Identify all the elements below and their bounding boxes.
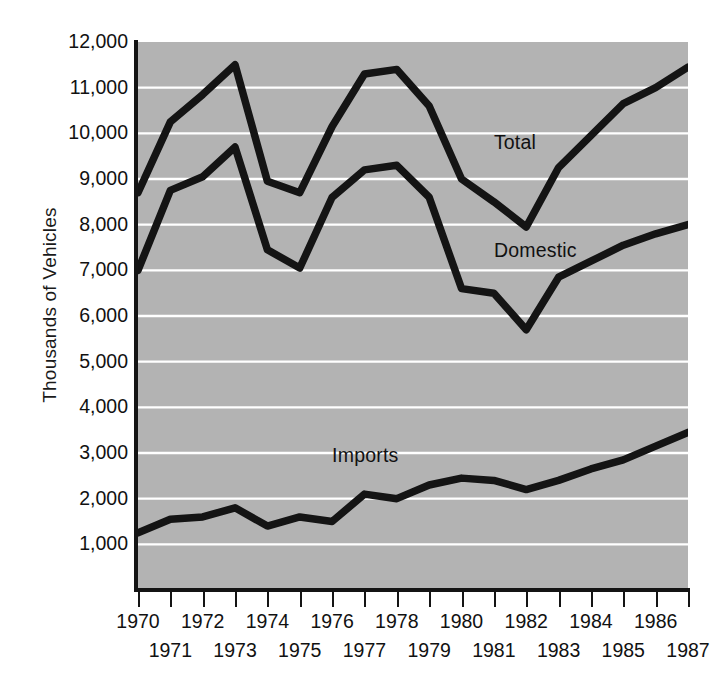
x-tick-mark <box>267 592 269 607</box>
y-tick-label: 8,000 <box>40 215 128 235</box>
x-tick-label: 1980 <box>434 612 490 632</box>
series-line-imports <box>138 432 688 532</box>
x-axis-ticks <box>138 592 688 608</box>
y-tick-label: 1,000 <box>40 534 128 554</box>
x-tick-mark <box>235 592 237 607</box>
x-tick-label: 1982 <box>498 612 554 632</box>
y-tick-label: 9,000 <box>40 169 128 189</box>
series-canvas <box>138 42 688 590</box>
x-tick-mark <box>526 592 528 607</box>
x-tick-mark <box>203 592 205 607</box>
x-tick-mark <box>300 592 302 607</box>
x-tick-label: 1985 <box>595 641 651 661</box>
plot-area <box>138 42 688 590</box>
x-tick-mark <box>429 592 431 607</box>
x-tick-mark <box>397 592 399 607</box>
x-tick-label: 1971 <box>142 641 198 661</box>
y-tick-label: 5,000 <box>40 352 128 372</box>
x-tick-mark <box>138 592 140 607</box>
x-tick-mark <box>623 592 625 607</box>
x-tick-label: 1977 <box>336 641 392 661</box>
y-tick-label: 12,000 <box>40 32 128 52</box>
y-axis-tick-labels: 12,00011,00010,0009,0008,0007,0006,0005,… <box>28 0 128 678</box>
x-tick-label: 1979 <box>401 641 457 661</box>
series-label-domestic: Domestic <box>494 239 577 262</box>
x-tick-mark <box>462 592 464 607</box>
x-tick-mark <box>170 592 172 607</box>
y-tick-label: 6,000 <box>40 306 128 326</box>
y-tick-label: 7,000 <box>40 260 128 280</box>
series-line-domestic <box>138 147 688 330</box>
x-tick-mark <box>591 592 593 607</box>
x-tick-mark <box>332 592 334 607</box>
x-tick-label: 1975 <box>272 641 328 661</box>
y-axis-line <box>134 40 138 592</box>
x-tick-label: 1981 <box>466 641 522 661</box>
x-tick-mark <box>364 592 366 607</box>
x-tick-label: 1976 <box>304 612 360 632</box>
y-tick-label: 4,000 <box>40 397 128 417</box>
x-tick-label: 1974 <box>239 612 295 632</box>
series-line-total <box>138 65 688 227</box>
x-tick-label: 1970 <box>110 612 166 632</box>
x-tick-label: 1972 <box>175 612 231 632</box>
x-tick-label: 1984 <box>563 612 619 632</box>
x-tick-label: 1973 <box>207 641 263 661</box>
x-tick-mark <box>494 592 496 607</box>
x-tick-mark <box>559 592 561 607</box>
chart-figure: Thousands of Vehicles 12,00011,00010,000… <box>0 0 719 678</box>
series-label-total: Total <box>494 131 536 154</box>
x-tick-mark <box>656 592 658 607</box>
y-tick-label: 10,000 <box>40 123 128 143</box>
x-tick-mark <box>688 592 690 607</box>
y-tick-label: 2,000 <box>40 489 128 509</box>
x-tick-label: 1978 <box>369 612 425 632</box>
series-label-imports: Imports <box>332 444 398 467</box>
x-tick-label: 1986 <box>628 612 684 632</box>
y-tick-label: 3,000 <box>40 443 128 463</box>
x-tick-label: 1983 <box>531 641 587 661</box>
x-tick-label: 1987 <box>660 641 716 661</box>
y-tick-label: 11,000 <box>40 78 128 98</box>
